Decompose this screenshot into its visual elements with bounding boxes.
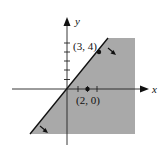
y-axis-label: y xyxy=(74,15,80,27)
point-2-0 xyxy=(85,87,89,91)
inequality-graph: y x (3, 4) (2, 0) xyxy=(0,0,168,155)
point-3-4-label: (3, 4) xyxy=(73,40,97,53)
point-3-4 xyxy=(97,50,101,54)
shaded-region xyxy=(30,38,135,134)
x-axis-arrow-icon xyxy=(140,86,149,93)
point-2-0-label: (2, 0) xyxy=(76,94,100,107)
y-axis-arrow-icon xyxy=(64,17,71,26)
x-axis-label: x xyxy=(151,83,157,95)
